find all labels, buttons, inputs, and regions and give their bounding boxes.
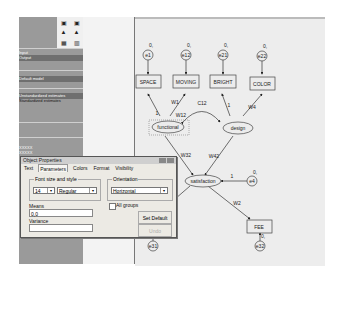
- object-properties-dialog: Object Properties Text Parameters Colors…: [20, 156, 177, 238]
- font-group: Font size and style 14▾ Regular▾: [29, 179, 101, 201]
- path-diagram-output-icon: ▣: [74, 19, 80, 26]
- font-group-label: Font size and style: [34, 176, 78, 182]
- chevron-down-icon: ▾: [47, 188, 54, 193]
- error-e31[interactable]: e31: [149, 243, 158, 249]
- path-label: W32: [181, 152, 192, 158]
- path-label: 1: [156, 110, 159, 116]
- tab-parameters[interactable]: Parameters: [38, 164, 68, 172]
- error-e32[interactable]: e32: [256, 243, 265, 249]
- path-label: C12: [197, 100, 206, 106]
- path-label: W12: [176, 112, 187, 118]
- divider: [19, 137, 83, 138]
- latent-satisfaction[interactable]: satisfaction: [190, 178, 215, 184]
- path-label: W42: [209, 153, 220, 159]
- path-label: 1: [228, 102, 231, 108]
- path-label: 1: [231, 173, 234, 179]
- error-e12[interactable]: e12: [182, 52, 191, 58]
- sidebar-item-default-model[interactable]: Default model: [19, 76, 83, 81]
- variance-input[interactable]: [29, 224, 93, 232]
- dialog-title: Object Properties: [23, 157, 62, 163]
- undo-button[interactable]: Undo: [138, 224, 172, 237]
- chevron-down-icon: ▾: [160, 188, 167, 193]
- error-e1[interactable]: e1: [145, 52, 151, 58]
- error-mean: 0,: [149, 42, 153, 48]
- means-input[interactable]: 0,0: [29, 209, 93, 217]
- path-label: W1: [171, 99, 179, 105]
- observed-var-bright[interactable]: BRIGHT: [214, 79, 233, 85]
- observed-var-moving[interactable]: MOVING: [176, 79, 196, 85]
- sidebar-item-standardized[interactable]: Standardized estimates: [19, 98, 83, 103]
- tab-colors[interactable]: Colors: [72, 164, 88, 172]
- path-diagram-icon: ▣: [61, 19, 67, 26]
- observed-var-color[interactable]: COLOR: [253, 81, 271, 87]
- error-e4[interactable]: e4: [249, 178, 255, 184]
- error-mean: 0,: [261, 233, 265, 239]
- font-style-select[interactable]: Regular▾: [57, 187, 97, 194]
- divider: [19, 122, 83, 123]
- path-label: W2: [233, 200, 241, 206]
- sidebar-item-output[interactable]: Output: [19, 55, 83, 60]
- latent-design[interactable]: design: [231, 125, 246, 131]
- observed-var-space[interactable]: SPACE: [140, 79, 157, 85]
- set-default-button[interactable]: Set Default: [138, 211, 172, 224]
- chevron-down-icon: ▾: [89, 188, 96, 193]
- divider: [19, 70, 83, 71]
- view-input-button[interactable]: ▣▲▦: [57, 17, 70, 48]
- error-mean: 0,: [224, 42, 228, 48]
- all-groups-checkbox[interactable]: [109, 203, 116, 210]
- latent-functional[interactable]: functional: [157, 124, 178, 130]
- observed-var-fee[interactable]: FEE: [254, 224, 264, 230]
- error-mean: 0,: [253, 169, 257, 175]
- path-label: W4: [248, 104, 256, 110]
- orientation-select[interactable]: Horizontal▾: [111, 187, 168, 194]
- minimize-button[interactable]: [159, 158, 166, 163]
- close-button[interactable]: [167, 158, 174, 163]
- all-groups-label: All groups: [116, 202, 138, 208]
- sidebar-file-label: XXXXX: [19, 150, 83, 155]
- error-mean: 0,: [187, 42, 191, 48]
- tab-format[interactable]: Format: [92, 164, 110, 172]
- divider: [19, 48, 83, 49]
- view-toggle-strip: ▣▲▦ ▣▲▥: [57, 17, 83, 48]
- dialog-title-bar[interactable]: Object Properties: [21, 157, 176, 164]
- error-e21[interactable]: e21: [219, 52, 228, 58]
- tab-text[interactable]: Text: [23, 164, 34, 172]
- font-size-select[interactable]: 14▾: [33, 187, 55, 194]
- orientation-label: Orientation: [112, 176, 138, 182]
- view-output-button[interactable]: ▣▲▥: [70, 17, 83, 48]
- divider: [19, 88, 83, 89]
- tab-bar: Text Parameters Colors Format Visibility: [21, 164, 176, 172]
- error-e22[interactable]: e22: [258, 53, 267, 59]
- tab-visibility[interactable]: Visibility: [114, 164, 134, 172]
- error-mean: 0,: [263, 43, 267, 49]
- orientation-group: Orientation Horizontal▾: [107, 179, 173, 201]
